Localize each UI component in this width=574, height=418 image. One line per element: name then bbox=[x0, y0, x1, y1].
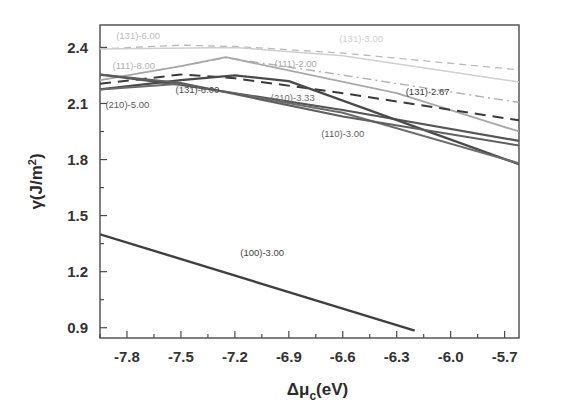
x-tick-label: -6.0 bbox=[438, 348, 464, 365]
x-tick-label: -5.7 bbox=[492, 348, 518, 365]
series-label-(131)-2.67: (131)-2.67 bbox=[406, 86, 450, 97]
x-tick-label: -6.6 bbox=[330, 348, 356, 365]
series-label-(111)-2.00: (111)-2.00 bbox=[274, 58, 316, 69]
y-tick-label: 2.1 bbox=[67, 95, 88, 112]
series-label-(131)-3.00: (131)-3.00 bbox=[339, 33, 383, 44]
series-label-(131)-6.00-solid: (131)-6.00 bbox=[176, 84, 220, 95]
y-tick-label: 1.5 bbox=[67, 207, 88, 224]
chart-svg: -7.8-7.5-7.2-6.9-6.6-6.3-6.0-5.70.91.21.… bbox=[0, 0, 574, 418]
curve-layer bbox=[100, 45, 519, 330]
series-line-(131)-6.00-solid bbox=[100, 75, 519, 164]
series-label-(111)-8.00: (111)-8.00 bbox=[113, 60, 155, 71]
x-tick-label: -7.2 bbox=[222, 348, 248, 365]
y-tick-label: 1.2 bbox=[67, 263, 88, 280]
series-label-(110)-3.00: (110)-3.00 bbox=[321, 128, 364, 139]
surface-energy-chart: -7.8-7.5-7.2-6.9-6.6-6.3-6.0-5.70.91.21.… bbox=[0, 0, 574, 418]
x-tick-label: -6.9 bbox=[276, 348, 302, 365]
y-axis-title: γ(J/m2) bbox=[26, 153, 46, 209]
series-label-(210)-3.33: (210)-3.33 bbox=[271, 92, 315, 103]
series-label-(131)-6.00: (131)-6.00 bbox=[116, 30, 160, 41]
y-tick-label: 2.4 bbox=[67, 39, 89, 56]
x-axis-title: Δμc(eV) bbox=[287, 380, 348, 403]
x-tick-label: -7.8 bbox=[114, 348, 140, 365]
y-tick-label: 0.9 bbox=[67, 319, 88, 336]
y-tick-label: 1.8 bbox=[67, 151, 88, 168]
series-label-(210)-5.00: (210)-5.00 bbox=[105, 99, 149, 110]
x-tick-label: -6.3 bbox=[384, 348, 410, 365]
x-tick-label: -7.5 bbox=[168, 348, 194, 365]
series-label-(100)-3.00: (100)-3.00 bbox=[240, 247, 284, 258]
